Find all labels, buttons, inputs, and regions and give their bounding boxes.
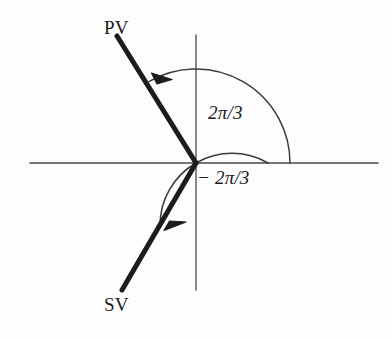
negative-angle-arrowhead xyxy=(164,221,186,231)
phasor-diagram-canvas xyxy=(0,0,392,339)
primary-vector-label: PV xyxy=(104,18,129,37)
negative-angle-arc xyxy=(160,153,268,225)
secondary-vector-label: SV xyxy=(104,295,129,314)
secondary-vector-line xyxy=(122,163,196,290)
positive-angle-label: 2π/3 xyxy=(208,103,243,122)
primary-vector-line xyxy=(117,36,196,163)
phasor-diagram-figure: PV SV 2π/3 − 2π/3 xyxy=(0,0,392,339)
negative-angle-label: − 2π/3 xyxy=(197,168,250,187)
